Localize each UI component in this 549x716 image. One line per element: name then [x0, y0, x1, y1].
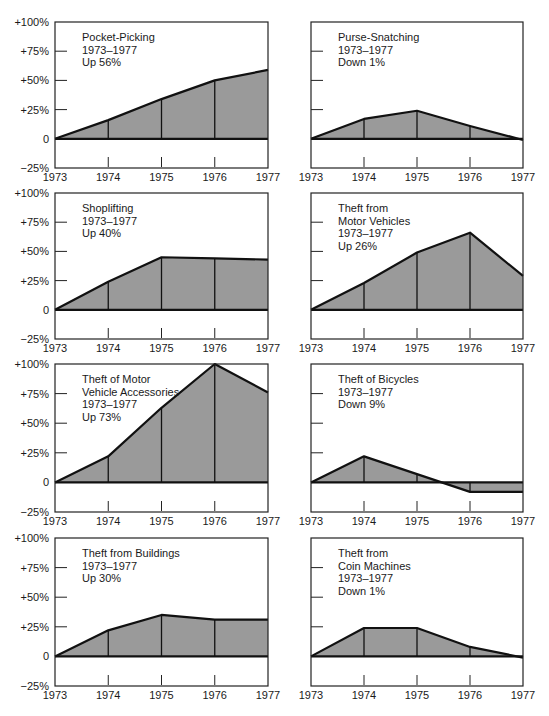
chart-title-line: Theft from Buildings	[82, 547, 180, 559]
x-axis-label: 1973	[299, 515, 323, 527]
chart-title-line: Up 73%	[82, 411, 121, 423]
small-multiple-chart: 19731974197519761977Theft fromMotor Vehi…	[299, 193, 535, 354]
x-axis-label: 1973	[43, 515, 67, 527]
y-axis-label: 0	[43, 650, 49, 662]
x-axis-label: 1975	[149, 171, 173, 183]
x-axis-label: 1977	[256, 342, 280, 354]
x-axis-label: 1974	[96, 171, 120, 183]
y-axis-label: 0	[43, 304, 49, 316]
chart-title-line: 1973–1977	[82, 44, 137, 56]
small-multiple-chart: 19731974197519761977Theft of Bicycles197…	[299, 364, 535, 527]
x-axis-label: 1973	[43, 342, 67, 354]
y-axis-label: +25%	[21, 104, 50, 116]
y-axis-label: +25%	[21, 275, 50, 287]
y-axis-label: +50%	[21, 417, 50, 429]
chart-title-line: Up 40%	[82, 227, 121, 239]
x-axis-label: 1976	[458, 342, 482, 354]
chart-title-line: 1973–1977	[82, 560, 137, 572]
x-axis-label: 1974	[96, 689, 120, 701]
chart-title-line: Theft of Motor	[82, 373, 151, 385]
x-axis-label: 1976	[203, 171, 227, 183]
x-axis-label: 1977	[511, 342, 535, 354]
x-axis-label: 1974	[352, 342, 376, 354]
chart-title-line: Theft from	[338, 202, 388, 214]
x-axis-label: 1977	[511, 171, 535, 183]
chart-grid: +100%+75%+50%+25%0−25%197319741975197619…	[0, 0, 549, 716]
y-axis-label: +75%	[21, 388, 50, 400]
x-axis-label: 1974	[352, 515, 376, 527]
x-axis-label: 1976	[203, 689, 227, 701]
x-axis-label: 1975	[405, 171, 429, 183]
y-axis-label: +100%	[14, 16, 49, 28]
y-axis-label: +100%	[14, 187, 49, 199]
chart-title-line: Purse-Snatching	[338, 31, 419, 43]
small-multiple-chart: +100%+75%+50%+25%0−25%197319741975197619…	[14, 16, 280, 183]
x-axis-label: 1974	[96, 515, 120, 527]
chart-title-line: Up 26%	[338, 240, 377, 252]
chart-title-line: Theft from	[338, 547, 388, 559]
chart-title-line: Vehicle Accessories	[82, 386, 180, 398]
chart-title-line: Down 9%	[338, 398, 385, 410]
y-axis-label: +100%	[14, 532, 49, 544]
x-axis-label: 1977	[256, 689, 280, 701]
x-axis-label: 1974	[352, 171, 376, 183]
x-axis-label: 1973	[299, 342, 323, 354]
x-axis-label: 1977	[511, 689, 535, 701]
x-axis-label: 1974	[96, 342, 120, 354]
chart-title-line: 1973–1977	[82, 398, 137, 410]
x-axis-label: 1976	[203, 515, 227, 527]
y-axis-label: 0	[43, 133, 49, 145]
y-axis-label: +75%	[21, 216, 50, 228]
chart-title-line: 1973–1977	[82, 215, 137, 227]
x-axis-label: 1973	[299, 171, 323, 183]
chart-title-line: Motor Vehicles	[338, 215, 411, 227]
x-axis-label: 1975	[405, 515, 429, 527]
chart-title-line: Up 56%	[82, 56, 121, 68]
y-axis-label: 0	[43, 476, 49, 488]
chart-title-line: 1973–1977	[338, 386, 393, 398]
chart-title-line: Shoplifting	[82, 202, 133, 214]
chart-title-line: Coin Machines	[338, 560, 411, 572]
y-axis-label: +75%	[21, 562, 50, 574]
y-axis-label: +75%	[21, 45, 50, 57]
x-axis-label: 1975	[405, 689, 429, 701]
x-axis-label: 1975	[149, 689, 173, 701]
chart-title-line: Pocket-Picking	[82, 31, 155, 43]
chart-title-line: 1973–1977	[338, 227, 393, 239]
x-axis-label: 1975	[405, 342, 429, 354]
small-multiple-chart: +100%+75%+50%+25%0−25%197319741975197619…	[14, 358, 280, 527]
x-axis-label: 1975	[149, 515, 173, 527]
x-axis-label: 1976	[458, 689, 482, 701]
y-axis-label: +25%	[21, 621, 50, 633]
y-axis-label: +100%	[14, 358, 49, 370]
chart-title-line: 1973–1977	[338, 44, 393, 56]
x-axis-label: 1977	[256, 515, 280, 527]
chart-title-line: 1973–1977	[338, 572, 393, 584]
x-axis-label: 1973	[43, 689, 67, 701]
small-multiple-chart: +100%+75%+50%+25%0−25%197319741975197619…	[14, 187, 280, 354]
x-axis-label: 1976	[203, 342, 227, 354]
small-multiple-chart: +100%+75%+50%+25%0−25%197319741975197619…	[14, 532, 280, 701]
small-multiple-chart: 19731974197519761977Purse-Snatching1973–…	[299, 22, 535, 183]
x-axis-label: 1973	[299, 689, 323, 701]
y-axis-label: +50%	[21, 245, 50, 257]
x-axis-label: 1975	[149, 342, 173, 354]
chart-title-line: Down 1%	[338, 585, 385, 597]
x-axis-label: 1974	[352, 689, 376, 701]
y-axis-label: +25%	[21, 447, 50, 459]
x-axis-label: 1976	[458, 171, 482, 183]
chart-title-line: Theft of Bicycles	[338, 373, 419, 385]
x-axis-label: 1977	[256, 171, 280, 183]
small-multiple-chart: 19731974197519761977Theft fromCoin Machi…	[299, 538, 535, 701]
y-axis-label: +50%	[21, 74, 50, 86]
x-axis-label: 1977	[511, 515, 535, 527]
chart-title-line: Up 30%	[82, 572, 121, 584]
chart-title-line: Down 1%	[338, 56, 385, 68]
x-axis-label: 1976	[458, 515, 482, 527]
y-axis-label: +50%	[21, 591, 50, 603]
x-axis-label: 1973	[43, 171, 67, 183]
